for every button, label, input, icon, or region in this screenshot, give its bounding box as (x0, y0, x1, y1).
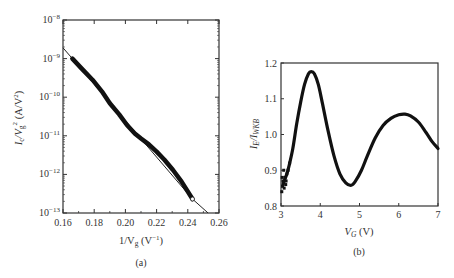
data-end-marker (190, 197, 194, 201)
y-tick-label: 10−8 (43, 13, 61, 25)
x-tick-label: 7 (436, 209, 441, 220)
plot-b-y-axis-label: IE/IWKB (248, 118, 261, 150)
y-tick-label: 0.8 (265, 201, 278, 212)
data-point (281, 185, 284, 188)
figure: 0.160.180.200.220.240.2610−1310−1210−111… (0, 0, 454, 278)
x-tick-label: 0.20 (117, 217, 135, 228)
plot-a: 0.160.180.200.220.240.2610−1310−1210−111… (11, 13, 228, 269)
y-tick-label: 1.1 (265, 93, 278, 104)
x-tick-label: 4 (318, 209, 323, 220)
data-point (285, 179, 288, 182)
plot-a-x-axis-label: 1/Vg (V−1) (119, 234, 164, 248)
data-point (282, 169, 285, 172)
data-curve (283, 72, 438, 186)
x-tick-label: 3 (279, 209, 284, 220)
plot-a-frame (63, 20, 219, 213)
y-tick-label: 1.0 (265, 129, 278, 140)
x-tick-label: 0.22 (148, 217, 166, 228)
plot-b-series (280, 72, 438, 194)
x-tick-label: 0.24 (179, 217, 197, 228)
x-tick-label: 6 (396, 209, 401, 220)
y-tick-label: 10−11 (39, 129, 60, 141)
y-tick-label: 10−12 (39, 167, 60, 179)
y-tick-label: 0.9 (265, 165, 278, 176)
y-tick-label: 10−9 (43, 52, 61, 64)
x-tick-label: 5 (357, 209, 362, 220)
data-point (287, 169, 290, 172)
plot-a-y-axis-label: Ic/Vg2 (A/V2) (11, 90, 26, 146)
data-point (284, 183, 287, 186)
x-tick-label: 0.16 (54, 217, 72, 228)
data-point (288, 162, 291, 165)
data-point (285, 172, 288, 175)
data-point (281, 176, 284, 179)
y-tick-label: 1.2 (265, 58, 278, 69)
data-point (280, 190, 283, 193)
y-tick-label: 10−10 (39, 90, 60, 102)
plot-a-ticks (63, 20, 219, 213)
data-point (281, 179, 284, 182)
data-point (283, 176, 286, 179)
plot-b-x-axis-label: VG (V) (344, 226, 374, 239)
x-tick-label: 0.18 (85, 217, 103, 228)
plot-a-caption: (a) (135, 257, 146, 269)
x-tick-label: 0.26 (210, 217, 228, 228)
plot-b-caption: (b) (353, 246, 365, 258)
plot-a-series (63, 48, 208, 213)
plot-b-tick-labels: 345670.80.91.01.11.2 (265, 58, 441, 221)
plot-b: 345670.80.91.01.11.2 VG (V) IE/IWKB (b) (248, 58, 441, 259)
plot-a-tick-labels: 0.160.180.200.220.240.2610−1310−1210−111… (39, 13, 228, 228)
